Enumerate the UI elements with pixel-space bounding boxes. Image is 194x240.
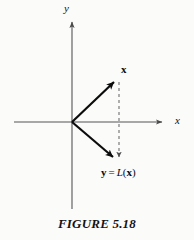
- vector-x-label: x: [121, 64, 127, 75]
- vector-y-arrow: [72, 122, 113, 157]
- vector-y-label: y=L(x): [101, 167, 136, 178]
- vector-y-label-lhs: y: [101, 166, 107, 178]
- vector-x-arrow: [72, 82, 114, 122]
- figure-container: y x x y=L(x) FIGURE 5.18: [0, 0, 194, 240]
- vector-y-label-paren-close: ): [132, 166, 136, 178]
- x-axis-label: x: [175, 115, 180, 126]
- figure-caption: FIGURE 5.18: [0, 217, 194, 230]
- vector-diagram: [0, 0, 194, 240]
- y-axis-label: y: [64, 3, 69, 14]
- vector-y-label-equals: =: [107, 166, 117, 178]
